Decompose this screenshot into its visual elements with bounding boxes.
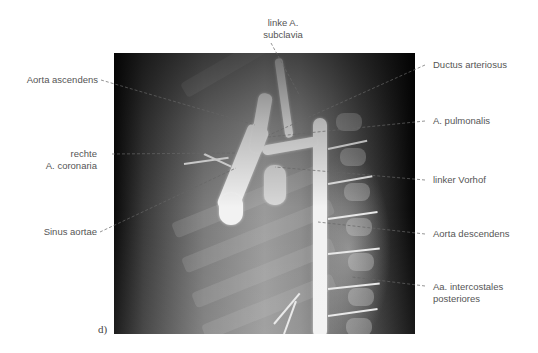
- label-line: Aorta descendens: [433, 228, 510, 240]
- label-line: posteriores: [433, 293, 503, 305]
- label-aorta-ascendens: Aorta ascendens: [0, 74, 98, 86]
- angiography-image: [114, 53, 415, 334]
- label-line: rechte: [0, 148, 97, 160]
- label-line: Ductus arteriosus: [433, 59, 507, 71]
- panel-letter: d): [98, 323, 107, 335]
- label-line: A. pulmonalis: [433, 115, 490, 127]
- label-line: Aa. intercostales: [433, 281, 503, 293]
- label-line: linker Vorhof: [433, 174, 486, 186]
- label-a-pulmonalis: A. pulmonalis: [433, 115, 490, 127]
- label-aorta-descendens: Aorta descendens: [433, 228, 510, 240]
- label-line: linke A.: [248, 17, 318, 29]
- label-aa-intercostales-posteriores: Aa. intercostales posteriores: [433, 281, 503, 305]
- image-shading: [114, 53, 415, 334]
- label-line: Aorta ascendens: [0, 74, 98, 86]
- label-rechte-a-coronaria: rechte A. coronaria: [0, 148, 97, 172]
- label-ductus-arteriosus: Ductus arteriosus: [433, 59, 507, 71]
- label-linker-vorhof: linker Vorhof: [433, 174, 486, 186]
- label-line: subclavia: [248, 29, 318, 41]
- label-linke-a-subclavia: linke A. subclavia: [248, 17, 318, 41]
- label-sinus-aortae: Sinus aortae: [0, 226, 97, 238]
- label-line: A. coronaria: [0, 160, 97, 172]
- label-line: Sinus aortae: [0, 226, 97, 238]
